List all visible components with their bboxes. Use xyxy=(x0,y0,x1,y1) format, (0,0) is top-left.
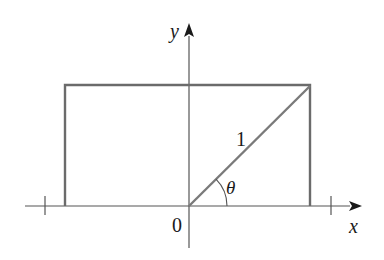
radius-segment xyxy=(189,86,310,206)
unit-circle-rectangle-diagram: y x 0 1 θ xyxy=(0,0,384,260)
y-axis-label: y xyxy=(168,20,179,43)
y-axis xyxy=(184,23,194,248)
x-axis-arrow-icon xyxy=(349,201,362,211)
origin-label: 0 xyxy=(172,214,182,236)
angle-theta-label: θ xyxy=(226,177,235,198)
y-axis-arrow-icon xyxy=(184,23,194,37)
radius-length-label: 1 xyxy=(236,128,246,150)
inscribed-rectangle xyxy=(65,85,310,206)
x-axis-label: x xyxy=(348,215,358,237)
